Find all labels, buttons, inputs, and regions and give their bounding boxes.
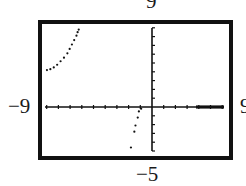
graph-screen <box>0 0 246 186</box>
screen-frame <box>40 22 231 158</box>
plot-points <box>46 28 142 148</box>
